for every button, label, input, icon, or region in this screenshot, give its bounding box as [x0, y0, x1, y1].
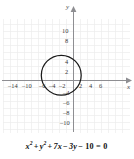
y-axis-arrow [71, 6, 77, 12]
equation-term-10: 10 [85, 142, 93, 151]
y-tick-label-2: 2 [65, 69, 68, 75]
equation-term-y-exponent: 2 [43, 140, 46, 146]
x-tick-label-neg14: –14 [8, 83, 18, 89]
equation-term-3y: 3y [69, 142, 77, 151]
equation-minus-2: − [78, 142, 83, 151]
y-tick-label-neg10: –10 [60, 120, 70, 126]
y-tick-label-neg4: –4 [63, 90, 69, 96]
x-tick-label-neg6: –6 [39, 83, 45, 89]
x-tick-label-neg10: –10 [22, 83, 32, 89]
y-axis-name: y [66, 4, 69, 11]
x-tick-label-2: 2 [79, 83, 82, 89]
equation-caption: x2+y2+7x−3y−10=0 [0, 142, 134, 151]
equation-minus-1: − [63, 142, 68, 151]
y-tick-label-neg8: –8 [63, 110, 69, 116]
y-tick-label-10: 10 [62, 28, 68, 34]
x-tick-label-neg4: –4 [49, 83, 55, 89]
plot-area: –14 –10 –6 –4 –2 2 4 6 10 8 4 2 –4 –6 –8… [0, 0, 134, 134]
x-tick-label-6: 6 [99, 83, 102, 89]
circle-graph-figure: –14 –10 –6 –4 –2 2 4 6 10 8 4 2 –4 –6 –8… [0, 0, 134, 159]
equation-term-7x: 7x [53, 142, 61, 151]
equation-plus-1: + [34, 142, 39, 151]
y-axis [71, 6, 77, 132]
equation-term-0: 0 [103, 142, 107, 151]
x-axis-name: x [127, 84, 130, 91]
x-tick-label-4: 4 [89, 83, 92, 89]
y-tick-label-8: 8 [65, 38, 68, 44]
equation-equals: = [96, 142, 101, 151]
y-tick-label-4: 4 [65, 59, 68, 65]
y-tick-label-neg6: –6 [63, 100, 69, 106]
equation-term-x-exponent: 2 [30, 140, 33, 146]
equation-plus-2: + [48, 142, 53, 151]
